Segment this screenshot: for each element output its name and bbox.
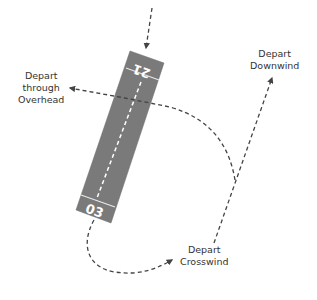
label-depart-downwind: Depart Downwind [250,48,299,72]
label-line: Downwind [250,60,299,72]
label-line: Depart [180,244,229,256]
runway [76,51,164,223]
label-line: through [18,82,64,94]
downwind-path [214,78,272,243]
approach-path [146,8,152,48]
label-depart-overhead: Depart through Overhead [18,70,64,106]
departure-diagram: 21 03 [0,0,317,300]
label-line: Depart [18,70,64,82]
label-line: Depart [250,48,299,60]
label-line: Crosswind [180,256,229,268]
label-depart-crosswind: Depart Crosswind [180,244,229,268]
crosswind-path [87,220,172,273]
label-line: Overhead [18,94,64,106]
